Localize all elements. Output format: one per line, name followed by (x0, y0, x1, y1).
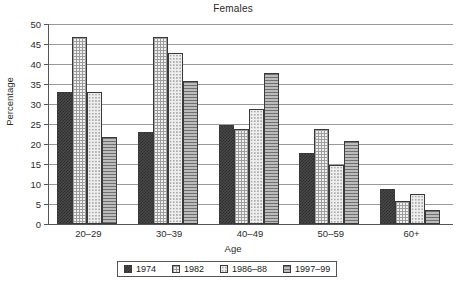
bar (102, 137, 117, 224)
y-axis-tick-label: 30 (30, 99, 41, 110)
bar-group (130, 24, 211, 224)
legend-item[interactable]: 1997–99 (283, 264, 330, 274)
legend-label: 1982 (184, 264, 204, 274)
legend-item[interactable]: 1986–88 (220, 264, 267, 274)
bar (138, 132, 153, 224)
bar-groups (49, 24, 453, 224)
x-axis-tick-label: 40–49 (210, 228, 291, 244)
x-axis-tick-labels: 20–2930–3940–4950–5960+ (48, 228, 452, 244)
bar (72, 37, 87, 224)
y-axis-tick-label: 45 (30, 39, 41, 50)
chart-title: Females (0, 3, 466, 14)
y-axis-tick-label: 5 (36, 199, 41, 210)
bar (344, 141, 359, 224)
y-axis-tick-label: 25 (30, 119, 41, 130)
bar (234, 129, 249, 224)
bar (299, 153, 314, 224)
x-axis-tick-label: 30–39 (129, 228, 210, 244)
bar (153, 37, 168, 224)
x-axis-label: Age (0, 243, 466, 254)
bar-group (49, 24, 130, 224)
bar-group (372, 24, 453, 224)
legend-swatch-icon (172, 265, 180, 273)
y-axis-tick-label: 0 (36, 219, 41, 230)
bar (183, 81, 198, 224)
y-axis-tick-label: 35 (30, 79, 41, 90)
bar (57, 92, 72, 224)
y-axis-tick-label: 15 (30, 159, 41, 170)
y-axis-tick-label: 40 (30, 59, 41, 70)
bar (380, 189, 395, 224)
bar-group (211, 24, 292, 224)
bar (425, 210, 440, 224)
legend-label: 1986–88 (232, 264, 267, 274)
plot-area: 05101520253035404550 (48, 24, 453, 225)
chart-container: Females Percentage 05101520253035404550 … (0, 0, 466, 282)
bar-group (291, 24, 372, 224)
x-axis-tick-label: 20–29 (48, 228, 129, 244)
y-axis-tick-label: 50 (30, 19, 41, 30)
legend-item[interactable]: 1974 (124, 264, 156, 274)
y-axis-tick (44, 224, 49, 225)
bar (410, 194, 425, 224)
bar (219, 125, 234, 224)
bar (395, 201, 410, 224)
y-axis-tick-label: 10 (30, 179, 41, 190)
legend-label: 1997–99 (295, 264, 330, 274)
legend-swatch-icon (220, 265, 228, 273)
bar (249, 109, 264, 224)
bar (314, 129, 329, 224)
x-axis-tick-label: 60+ (371, 228, 452, 244)
chart-legend: 197419821986–881997–99 (117, 261, 337, 277)
y-axis-tick-label: 20 (30, 139, 41, 150)
bar (329, 165, 344, 224)
legend-swatch-icon (283, 265, 291, 273)
x-axis-tick-label: 50–59 (290, 228, 371, 244)
y-axis-label: Percentage (4, 67, 15, 137)
bar (87, 92, 102, 224)
legend-item[interactable]: 1982 (172, 264, 204, 274)
bar (168, 53, 183, 224)
legend-label: 1974 (136, 264, 156, 274)
bar (264, 73, 279, 224)
legend-swatch-icon (124, 265, 132, 273)
